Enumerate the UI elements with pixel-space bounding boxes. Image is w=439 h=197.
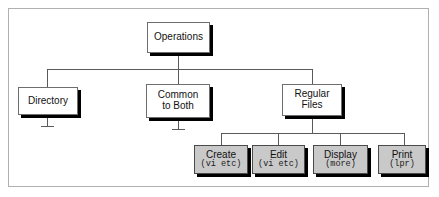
diagram-canvas: Operations Directory Common to Both Regu…: [0, 0, 439, 197]
stub-common-tbar: [172, 129, 185, 130]
node-operations[interactable]: Operations: [147, 22, 210, 53]
connector-regular-down: [312, 115, 313, 133]
node-common-to-both[interactable]: Common to Both: [146, 84, 210, 118]
connector-bus-level2: [47, 69, 312, 70]
node-edit[interactable]: Edit (vi etc): [252, 145, 305, 174]
connector-bus-to-display: [340, 133, 341, 145]
connector-bus-to-edit: [278, 133, 279, 145]
stub-common-down: [178, 118, 179, 129]
node-display[interactable]: Display (more): [313, 145, 368, 174]
node-create[interactable]: Create (vi etc): [194, 145, 248, 174]
connector-bus-to-create: [221, 133, 222, 145]
node-regular-files-label-line2: Files: [301, 100, 322, 111]
connector-bus-to-print: [404, 133, 405, 145]
node-print-detail: (lpr): [389, 160, 415, 169]
stub-directory-down: [47, 115, 48, 126]
node-create-detail: (vi etc): [201, 160, 242, 169]
connector-root-down: [178, 53, 179, 69]
node-regular-files[interactable]: Regular Files: [282, 84, 342, 116]
node-directory-label: Directory: [28, 96, 68, 107]
node-common-to-both-label-line2: to Both: [162, 101, 194, 112]
connector-bus-level3: [221, 133, 404, 134]
node-operations-label: Operations: [154, 32, 203, 43]
stub-directory-tbar: [41, 126, 54, 127]
node-display-detail: (more): [325, 160, 356, 169]
node-print[interactable]: Print (lpr): [378, 145, 426, 174]
node-directory[interactable]: Directory: [18, 87, 78, 115]
node-edit-detail: (vi etc): [258, 160, 299, 169]
connector-bus-to-directory: [47, 69, 48, 87]
